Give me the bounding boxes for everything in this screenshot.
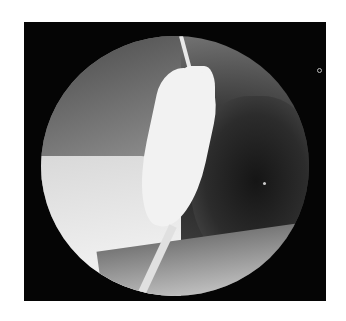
radiograph-frame (24, 22, 326, 301)
small-opacity (263, 182, 266, 185)
orientation-marker (317, 68, 322, 73)
fluoroscopy-field (41, 36, 309, 296)
